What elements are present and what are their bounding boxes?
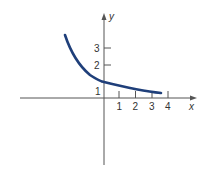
y-tick-label-2: 2 [94, 60, 100, 71]
x-tick-label-3: 3 [149, 101, 155, 112]
y-axis-arrow-icon [102, 13, 107, 20]
y-ticks: 1 2 3 [94, 43, 111, 97]
x-tick-label-1: 1 [117, 101, 123, 112]
x-axis-arrow-icon [190, 96, 197, 101]
y-tick-label-3: 3 [94, 43, 100, 54]
x-ticks: 1 2 3 4 [117, 91, 172, 112]
y-axis-label: y [108, 11, 115, 22]
y-tick-label-1: 1 [95, 86, 101, 97]
y-axis: y [102, 11, 116, 165]
curve-series [65, 35, 161, 93]
x-axis-label: x [188, 101, 195, 112]
x-tick-label-2: 2 [133, 101, 139, 112]
x-tick-label-4: 4 [165, 101, 171, 112]
coordinate-graph: x y 1 2 3 4 1 2 3 [0, 0, 206, 173]
